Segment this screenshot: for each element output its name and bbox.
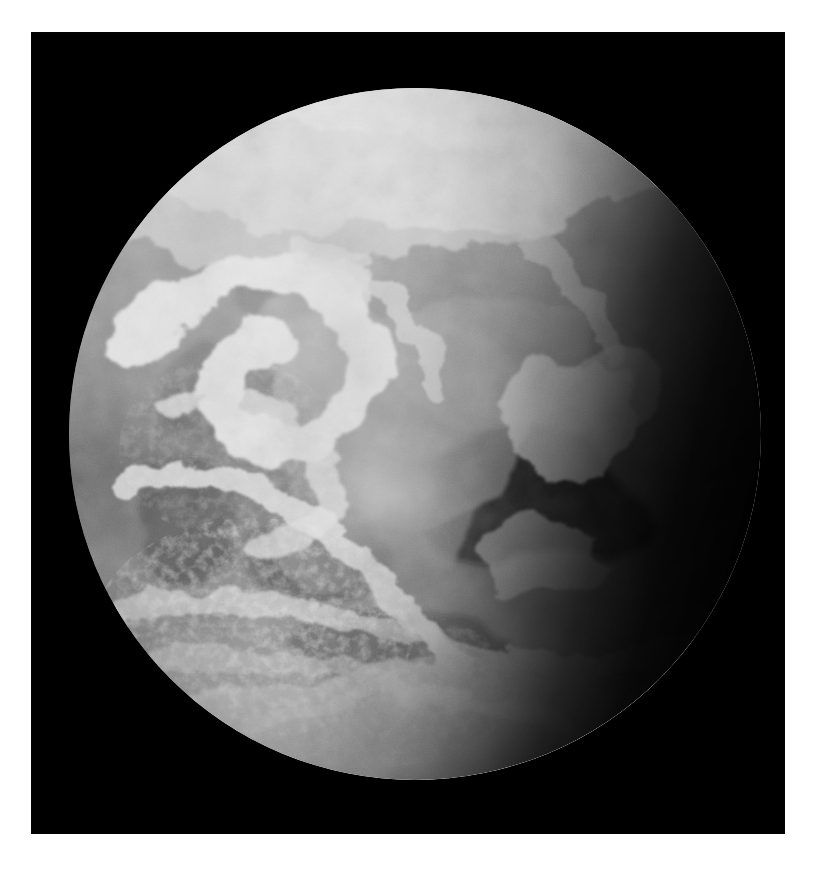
limb-fade <box>69 88 761 780</box>
page-canvas <box>0 0 829 873</box>
earth-globe <box>69 88 761 780</box>
earth-photograph <box>31 32 785 834</box>
